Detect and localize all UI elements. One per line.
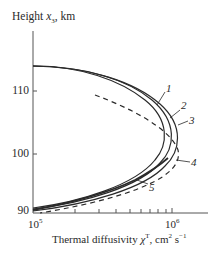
- curve-label-2: 2: [181, 99, 187, 111]
- curves: [33, 66, 178, 213]
- curve-label-3: 3: [188, 114, 195, 126]
- curve-label-4: 4: [191, 156, 197, 168]
- curve-label-5: 5: [149, 181, 155, 193]
- plot-area: 1 2 3 4 5: [0, 0, 218, 257]
- curve-3: [33, 66, 178, 211]
- curve-label-1: 1: [166, 82, 172, 94]
- curve-labels: 1 2 3 4 5: [149, 82, 197, 193]
